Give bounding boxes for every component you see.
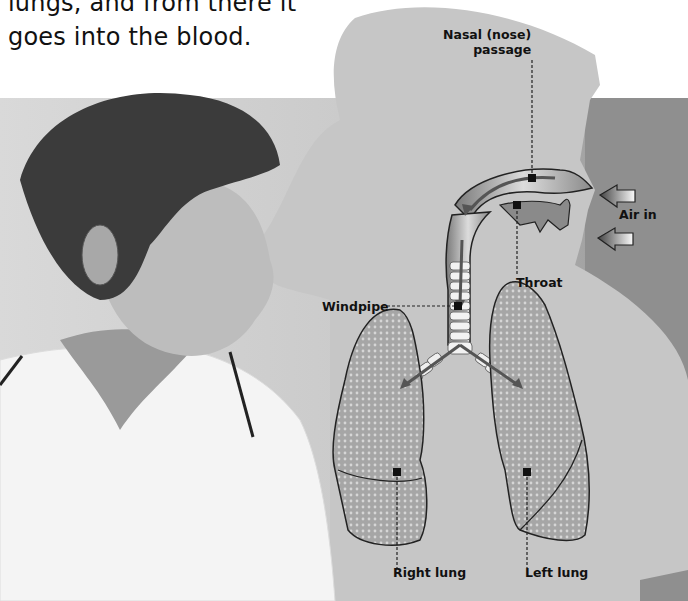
label-nasal-passage: Nasal (nose) passage xyxy=(443,27,531,57)
ear xyxy=(82,225,118,285)
boy-photo xyxy=(0,93,335,601)
label-right-lung: Right lung xyxy=(393,565,466,580)
label-left-lung: Left lung xyxy=(525,565,588,580)
label-windpipe: Windpipe xyxy=(322,299,389,314)
diagram-page: lungs, and from there it goes into the b… xyxy=(0,0,688,601)
label-air-in: Air in xyxy=(619,207,657,222)
caption-line-2: goes into the blood. xyxy=(8,20,296,54)
shirt xyxy=(0,348,335,601)
caption-text: lungs, and from there it goes into the b… xyxy=(8,0,296,54)
caption-line-1: lungs, and from there it xyxy=(8,0,296,20)
label-throat: Throat xyxy=(516,275,563,290)
